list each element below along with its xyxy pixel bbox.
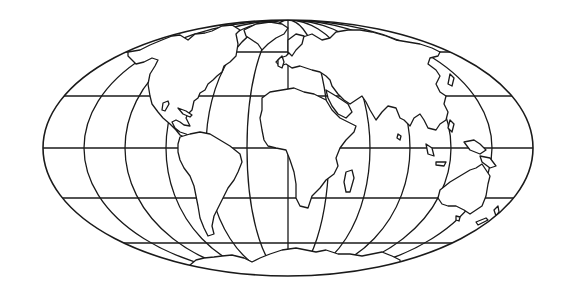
tasmania (456, 216, 460, 221)
indonesia-borneo (464, 140, 486, 154)
north-america (128, 25, 240, 138)
indonesia-sumatra (426, 144, 434, 156)
world-map: World map outline (0, 0, 565, 299)
java (436, 162, 446, 166)
madagascar (344, 170, 354, 192)
map-canvas (0, 0, 565, 299)
greenland (244, 22, 288, 50)
sri-lanka (397, 134, 401, 140)
australia (438, 164, 490, 214)
japan (448, 74, 454, 86)
british-isles (278, 56, 284, 68)
